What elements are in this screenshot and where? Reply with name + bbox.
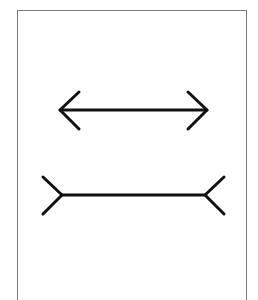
right-fin-icon <box>205 177 224 214</box>
double-arrow-outward-heads <box>60 92 207 129</box>
left-fin-icon <box>43 177 62 214</box>
double-arrow-inward-fins <box>43 177 224 214</box>
